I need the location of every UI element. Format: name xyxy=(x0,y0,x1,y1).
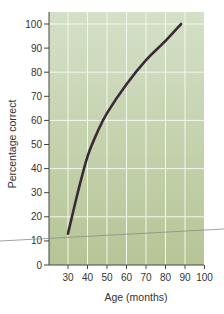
x-tick-label: 60 xyxy=(121,272,133,283)
line-chart: 30405060708090100 0102030405060708090100… xyxy=(0,0,224,314)
x-axis-title: Age (months) xyxy=(104,291,167,303)
y-tick-label: 10 xyxy=(31,235,43,246)
x-tick-label: 50 xyxy=(101,272,113,283)
x-tick-label: 90 xyxy=(179,272,191,283)
y-tick-label: 70 xyxy=(31,91,43,102)
y-tick-label: 0 xyxy=(36,260,42,271)
x-tick-label: 80 xyxy=(160,272,172,283)
y-tick-label: 50 xyxy=(31,139,43,150)
x-tick-label: 40 xyxy=(82,272,94,283)
y-tick-label: 20 xyxy=(31,211,43,222)
x-tick-label: 30 xyxy=(62,272,74,283)
y-tick-label: 90 xyxy=(31,43,43,54)
y-axis-ticks: 0102030405060708090100 xyxy=(25,19,49,271)
y-tick-label: 60 xyxy=(31,115,43,126)
x-tick-label: 100 xyxy=(196,272,213,283)
y-tick-label: 40 xyxy=(31,163,43,174)
y-tick-label: 30 xyxy=(31,187,43,198)
x-tick-label: 70 xyxy=(140,272,152,283)
y-tick-label: 100 xyxy=(25,19,42,30)
y-axis-title: Percentage correct xyxy=(6,100,18,189)
x-axis-ticks: 30405060708090100 xyxy=(62,265,213,283)
y-tick-label: 80 xyxy=(31,67,43,78)
